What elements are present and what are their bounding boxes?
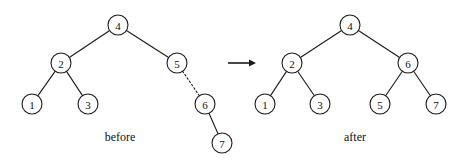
- tree-node-a4: 4: [340, 15, 360, 35]
- after-tree-nodes: 4261357: [255, 15, 446, 114]
- node-label-a5: 5: [377, 99, 383, 111]
- before-caption: before: [105, 130, 136, 144]
- tree-edge-a6-a7: [414, 71, 431, 95]
- node-label-a7: 7: [433, 99, 439, 111]
- before-tree-edges: [38, 30, 218, 133]
- tree-node-a6: 6: [398, 53, 418, 73]
- tree-node-b2: 2: [51, 53, 71, 73]
- transformation-arrow: [228, 60, 256, 67]
- node-label-b6: 6: [202, 99, 208, 111]
- tree-edge-a4-a2: [300, 30, 341, 57]
- tree-edge-b6-b7: [209, 113, 218, 134]
- node-label-a6: 6: [405, 58, 411, 70]
- tree-node-b7: 7: [212, 133, 232, 153]
- tree-edge-a2-a1: [270, 71, 286, 95]
- tree-node-a5: 5: [370, 94, 390, 114]
- tree-node-a1: 1: [255, 94, 275, 114]
- node-label-a3: 3: [317, 99, 323, 111]
- node-label-b7: 7: [219, 138, 225, 150]
- tree-node-b6: 6: [195, 94, 215, 114]
- node-label-a1: 1: [262, 99, 268, 111]
- tree-node-b3: 3: [78, 94, 98, 114]
- tree-node-a3: 3: [310, 94, 330, 114]
- node-label-b4: 4: [115, 20, 121, 32]
- tree-node-b4: 4: [108, 15, 128, 35]
- tree-edge-b2-b3: [66, 71, 82, 95]
- tree-node-a7: 7: [426, 94, 446, 114]
- node-label-b5: 5: [174, 58, 180, 70]
- node-label-b1: 1: [29, 99, 35, 111]
- tree-edge-a2-a3: [298, 71, 315, 95]
- arrow-head: [249, 60, 256, 67]
- tree-node-a2: 2: [282, 53, 302, 73]
- tree-rotation-figure: 4251367 before 4261357 after: [0, 0, 467, 163]
- tree-edge-a4-a6: [358, 30, 399, 57]
- tree-edge-b4-b2: [69, 31, 109, 58]
- figure-canvas: 4251367 before 4261357 after: [0, 0, 467, 163]
- node-label-a2: 2: [289, 58, 295, 70]
- node-label-b3: 3: [85, 99, 91, 111]
- tree-edge-b4-b5: [126, 30, 168, 57]
- node-label-a4: 4: [347, 20, 353, 32]
- tree-node-b1: 1: [22, 94, 42, 114]
- node-label-b2: 2: [58, 58, 64, 70]
- tree-edge-b5-b6: [183, 71, 200, 95]
- tree-node-b5: 5: [167, 53, 187, 73]
- tree-edge-b2-b1: [38, 71, 55, 96]
- tree-edge-a6-a5: [386, 71, 403, 95]
- after-caption: after: [344, 130, 366, 144]
